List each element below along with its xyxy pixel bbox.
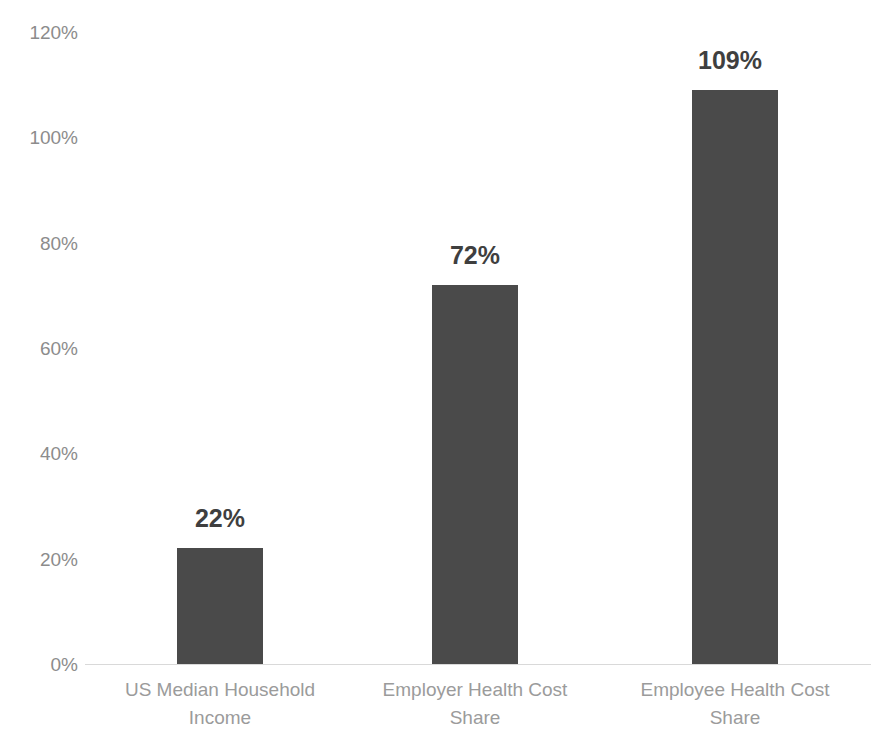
y-axis-tick-label: 120%: [6, 23, 78, 42]
y-axis-tick-label: 80%: [6, 234, 78, 253]
bar-employer-health-cost-share[interactable]: [432, 285, 518, 664]
y-axis-tick-label: 40%: [6, 444, 78, 463]
bar-value-label: 72%: [395, 241, 555, 270]
category-label-line: Share: [350, 704, 600, 732]
category-label-line: Employer Health Cost: [350, 676, 600, 704]
category-label-employee-health-cost-share: Employee Health Cost Share: [610, 676, 860, 731]
y-axis-tick-label: 100%: [6, 128, 78, 147]
plot-area: 120% 100% 80% 60% 40% 20% 0% 22% 72% 109…: [0, 0, 875, 749]
category-label-line: Income: [95, 704, 345, 732]
y-axis-tick-label: 20%: [6, 550, 78, 569]
y-axis-tick-label: 0%: [6, 655, 78, 674]
category-label-us-median-household-income: US Median Household Income: [95, 676, 345, 731]
bar-employee-health-cost-share[interactable]: [692, 90, 778, 664]
chart-container: 2007-2017 PERCENTAGE CHANGE 120% 100% 80…: [0, 0, 875, 749]
category-label-line: Share: [610, 704, 860, 732]
category-axis-line: [85, 664, 871, 665]
y-axis-tick-label: 60%: [6, 339, 78, 358]
bar-value-label: 22%: [140, 504, 300, 533]
category-label-employer-health-cost-share: Employer Health Cost Share: [350, 676, 600, 731]
bar-us-median-household-income[interactable]: [177, 548, 263, 664]
category-label-line: Employee Health Cost: [610, 676, 860, 704]
category-label-line: US Median Household: [95, 676, 345, 704]
bar-value-label: 109%: [650, 46, 810, 75]
